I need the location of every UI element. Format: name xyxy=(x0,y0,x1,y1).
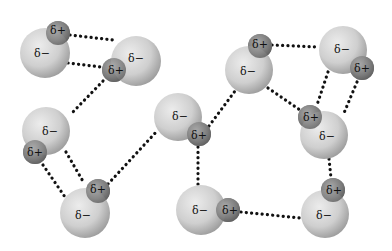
hydrogen-bond xyxy=(66,152,84,183)
water-molecule: δ−δ+ xyxy=(225,34,273,94)
partial-positive-label: δ+ xyxy=(191,129,207,142)
hydrogen-bond xyxy=(70,35,113,40)
partial-negative-label: δ− xyxy=(42,125,58,138)
hydrogen-bond xyxy=(329,159,331,178)
hydrogen-bond xyxy=(108,131,157,184)
water-hydrogen-bond-diagram: δ−δ+δ−δ+δ−δ+δ−δ+δ−δ+δ−δ+δ−δ+δ−δ+δ−δ+δ−δ+ xyxy=(0,0,392,251)
partial-negative-label: δ− xyxy=(172,110,188,123)
water-molecules: δ−δ+δ−δ+δ−δ+δ−δ+δ−δ+δ−δ+δ−δ+δ−δ+δ−δ+δ−δ+ xyxy=(20,21,374,238)
hydrogen-bond xyxy=(268,88,300,110)
partial-positive-label: δ+ xyxy=(108,64,124,77)
hydrogen-bond xyxy=(317,72,328,105)
hydrogen-bond xyxy=(43,165,65,197)
partial-positive-label: δ+ xyxy=(303,111,319,124)
partial-positive-label: δ+ xyxy=(50,24,66,37)
partial-positive-label: δ+ xyxy=(326,184,342,197)
hydrogen-bond xyxy=(241,212,300,218)
hydrogen-bond xyxy=(70,81,103,115)
water-molecule: δ−δ+ xyxy=(154,93,211,146)
partial-positive-label: δ+ xyxy=(27,146,43,159)
hydrogen-bond xyxy=(209,91,235,126)
partial-positive-label: δ+ xyxy=(222,204,238,217)
partial-positive-label: δ+ xyxy=(90,183,106,196)
water-molecule: δ−δ+ xyxy=(176,185,240,235)
hydrogen-bond xyxy=(272,45,319,47)
water-molecule: δ−δ+ xyxy=(20,21,70,78)
water-molecule: δ−δ+ xyxy=(301,178,349,238)
partial-positive-label: δ+ xyxy=(252,38,268,51)
partial-negative-label: δ− xyxy=(192,204,208,217)
partial-negative-label: δ− xyxy=(240,65,256,78)
water-molecule: δ−δ+ xyxy=(60,179,110,238)
partial-positive-label: δ+ xyxy=(354,62,370,75)
partial-negative-label: δ− xyxy=(316,209,332,222)
hydrogen-bond xyxy=(344,82,357,113)
water-molecule: δ−δ+ xyxy=(298,105,348,159)
hydrogen-bond xyxy=(68,63,101,67)
partial-negative-label: δ− xyxy=(75,209,91,222)
water-molecule: δ−δ+ xyxy=(22,107,70,164)
water-molecule: δ−δ+ xyxy=(102,36,161,86)
partial-negative-label: δ− xyxy=(319,130,335,143)
partial-negative-label: δ− xyxy=(128,52,144,65)
partial-negative-label: δ− xyxy=(334,43,350,56)
partial-negative-label: δ− xyxy=(34,47,50,60)
